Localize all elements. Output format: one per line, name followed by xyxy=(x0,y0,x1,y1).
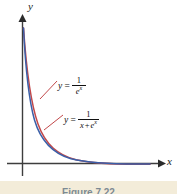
leader-line-curve2 xyxy=(44,115,63,130)
curve1-denominator: ex xyxy=(74,87,84,97)
leader-line-curve1 xyxy=(40,81,57,99)
curve2-lhs: y xyxy=(64,116,69,126)
curve2-den-exponent: x xyxy=(94,119,97,125)
curve-label-x-plus-exp-reciprocal: y = 1 x+ex xyxy=(64,110,99,131)
plot-area xyxy=(0,0,177,194)
y-axis-label: y xyxy=(28,1,33,12)
curve2-denominator: x+ex xyxy=(78,121,99,131)
curve1-den-exponent: x xyxy=(79,85,82,91)
curve-label-exp-reciprocal: y = 1 ex xyxy=(58,76,86,97)
curve1-numerator: 1 xyxy=(75,76,83,85)
curve2-numerator: 1 xyxy=(84,110,92,119)
y-axis-arrowhead xyxy=(19,14,27,22)
curve1-equals: = xyxy=(65,82,70,92)
figure-container: y x y = 1 ex y = 1 x+ex Figure 7.22 xyxy=(0,0,177,194)
x-axis-label: x xyxy=(167,156,172,167)
x-axis-arrowhead xyxy=(158,160,166,168)
curve1-lhs: y xyxy=(58,82,63,92)
caption-strip: Figure 7.22 xyxy=(0,181,177,194)
curve1-fraction: 1 ex xyxy=(72,76,86,97)
figure-caption: Figure 7.22 xyxy=(62,187,115,194)
curve2-equals: = xyxy=(71,116,76,126)
curve2-fraction: 1 x+ex xyxy=(78,110,99,131)
